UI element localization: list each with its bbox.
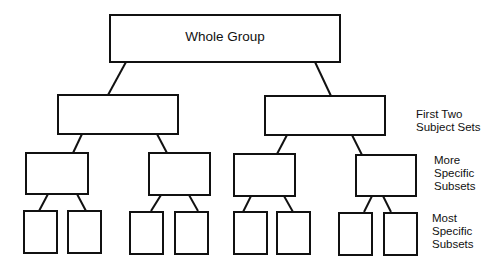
level3-box (384, 213, 417, 255)
level2-box (356, 155, 416, 196)
level3-box (277, 212, 310, 254)
level3-box (24, 211, 57, 253)
level3-label-line: Subsets (432, 238, 474, 251)
level1-label: First Two Subject Sets (416, 108, 481, 134)
level2-box (26, 153, 88, 194)
level3-label-line: Most (432, 212, 474, 225)
level3-box (68, 211, 101, 253)
level2-box (234, 154, 295, 196)
level1-label-line: Subject Sets (416, 121, 481, 134)
level2-label-line: Subsets (434, 180, 476, 193)
root-label: Whole Group (110, 29, 340, 44)
level2-box (149, 153, 210, 195)
level2-label-line: Specific (434, 167, 476, 180)
level1-box (58, 95, 178, 134)
level1-label-line: First Two (416, 108, 481, 121)
level3-box (130, 212, 163, 254)
level3-box (175, 212, 208, 254)
level1-box (265, 96, 385, 135)
level3-box (234, 212, 267, 254)
level2-label-line: More (434, 154, 476, 167)
level3-box (339, 213, 372, 255)
level3-label-line: Specific (432, 225, 474, 238)
level3-label: Most Specific Subsets (432, 212, 474, 251)
level2-label: More Specific Subsets (434, 154, 476, 193)
